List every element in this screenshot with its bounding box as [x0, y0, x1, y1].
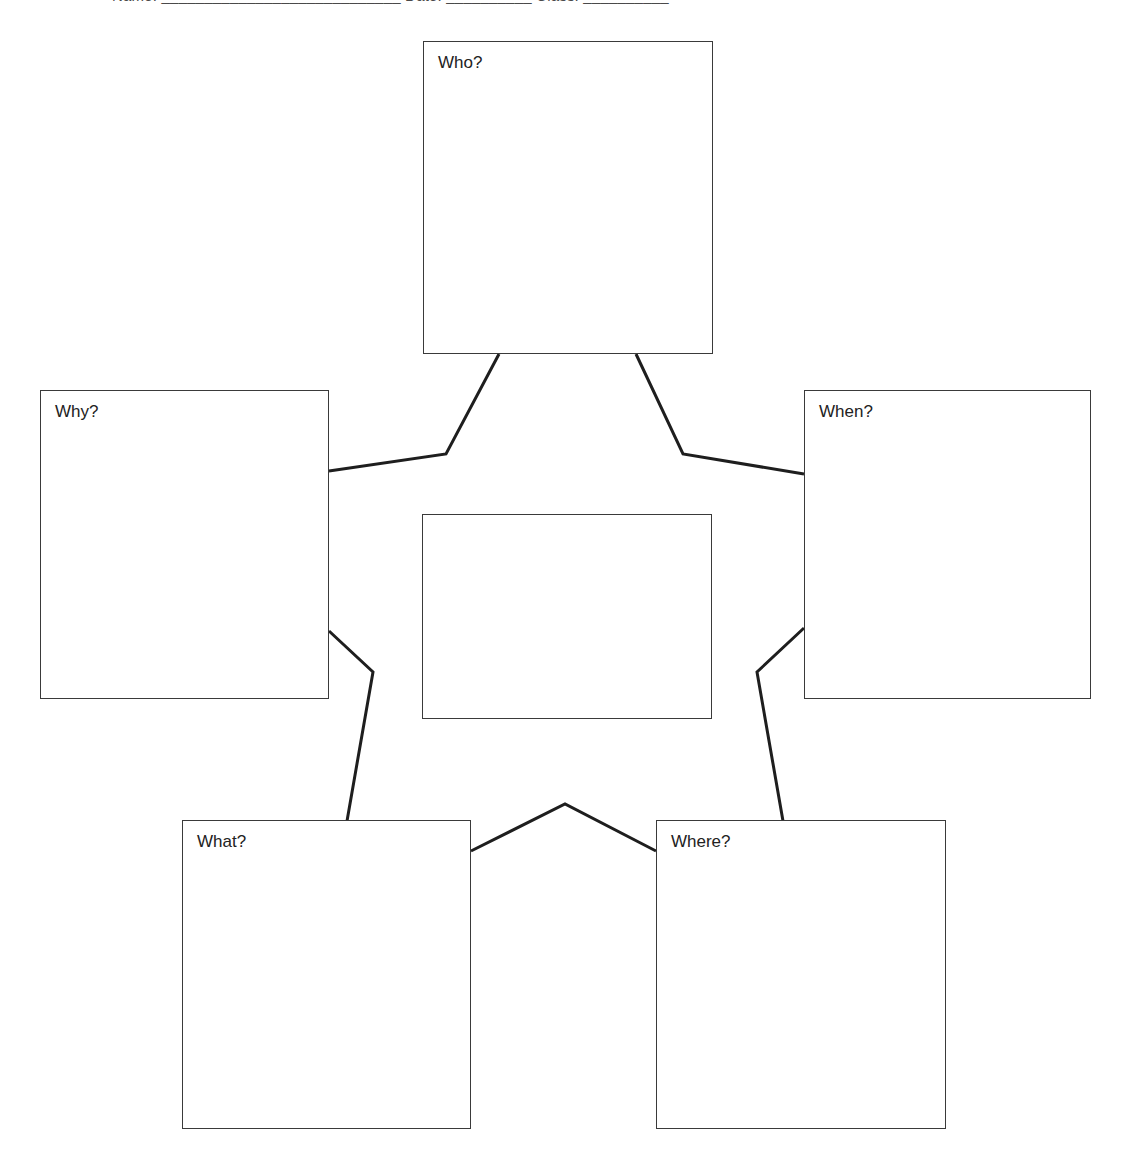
node-box-when[interactable]: When? [804, 390, 1091, 699]
node-box-who[interactable]: Who? [423, 41, 713, 354]
node-label-why: Why? [55, 401, 98, 423]
node-box-where[interactable]: Where? [656, 820, 946, 1129]
diagram-canvas: Name: ____________________________ Date:… [0, 0, 1130, 1176]
node-label-who: Who? [438, 52, 482, 74]
connector-what-where [471, 804, 656, 851]
node-box-what[interactable]: What? [182, 820, 471, 1129]
node-label-when: When? [819, 401, 873, 423]
connector-who-when [636, 354, 804, 474]
connector-why-what [329, 631, 373, 821]
node-label-where: Where? [671, 831, 731, 853]
node-box-center[interactable] [422, 514, 712, 719]
connector-when-where [757, 628, 804, 821]
connector-who-why [329, 354, 499, 471]
node-label-what: What? [197, 831, 246, 853]
node-box-why[interactable]: Why? [40, 390, 329, 699]
